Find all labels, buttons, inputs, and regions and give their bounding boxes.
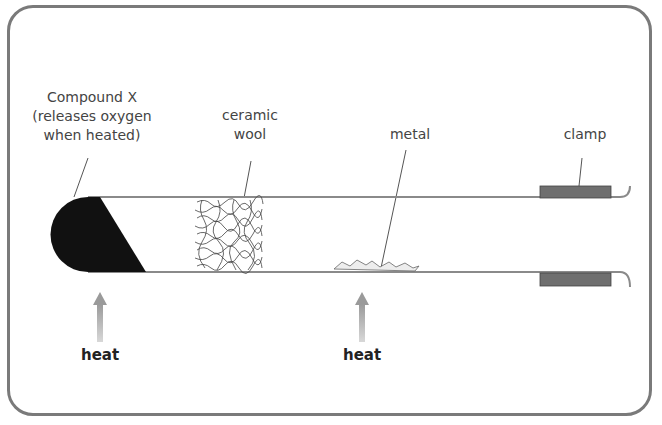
ceramic-wool <box>195 195 263 273</box>
heat-label: heat <box>343 346 381 364</box>
compound-x-line-1: Compound X <box>22 88 162 107</box>
up-arrow-icon <box>93 292 107 342</box>
metal-leader-line <box>381 150 406 268</box>
ceramic-wool-line-1: ceramic <box>215 106 285 125</box>
up-arrow-icon <box>355 292 369 342</box>
ceramic-wool-line-2: wool <box>215 125 285 144</box>
clamp-top <box>540 186 611 198</box>
ceramic-wool-label: ceramic wool <box>215 106 285 144</box>
boiling-tube <box>88 186 630 287</box>
clamp-label: clamp <box>555 125 615 144</box>
compound-x-solid <box>51 197 147 272</box>
metal-label: metal <box>380 125 440 144</box>
clamp-leader-line <box>579 158 582 186</box>
compound-x-line-3: when heated) <box>22 126 162 145</box>
compound-leader-line <box>74 158 88 197</box>
wool-leader-line <box>244 161 251 198</box>
metal-sample <box>334 260 419 271</box>
compound-x-line-2: (releases oxygen <box>22 107 162 126</box>
heat-label: heat <box>81 346 119 364</box>
clamp-bottom <box>540 273 611 286</box>
compound-x-label: Compound X (releases oxygen when heated) <box>22 88 162 145</box>
